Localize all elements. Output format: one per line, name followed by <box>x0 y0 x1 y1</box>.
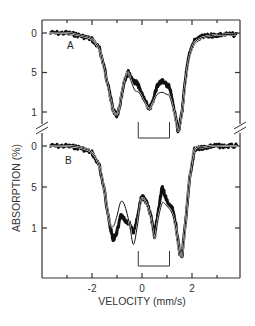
y-tick-label: 0 <box>31 141 37 152</box>
y-axis-title: ABSORPTION (%) <box>10 144 22 232</box>
spectrum-a-fit-halo <box>50 33 238 131</box>
plot-frame <box>42 20 240 278</box>
x-tick-label: 2 <box>189 283 195 294</box>
y-tick-label: 1 <box>31 107 37 118</box>
spectra <box>50 31 238 258</box>
mossbauer-chart: -202 051051 A B VELOCITY (mm/s) ABSORPTI… <box>0 0 255 326</box>
spectrum-a-fit <box>50 33 238 131</box>
y-tick-label: 1 <box>31 223 37 234</box>
spectrum-b-fit <box>50 146 238 258</box>
y-tick-label: 5 <box>31 182 37 193</box>
panel-label-a: A <box>67 40 74 51</box>
y-tick-label: 5 <box>31 67 37 78</box>
spectrum-a-data <box>50 31 238 132</box>
x-tick-label: 0 <box>139 283 145 294</box>
panel-label-b: B <box>65 155 72 166</box>
x-axis-title: VELOCITY (mm/s) <box>98 295 185 307</box>
bracket-a <box>138 122 169 138</box>
x-tick-label: -2 <box>88 283 97 294</box>
y-tick-label: 0 <box>31 28 37 39</box>
spectrum-b-data <box>50 144 238 257</box>
bracket-b <box>138 251 169 266</box>
y-axis-ticks: 051051 <box>31 28 240 234</box>
spectrum-b-fit-halo <box>50 146 238 258</box>
